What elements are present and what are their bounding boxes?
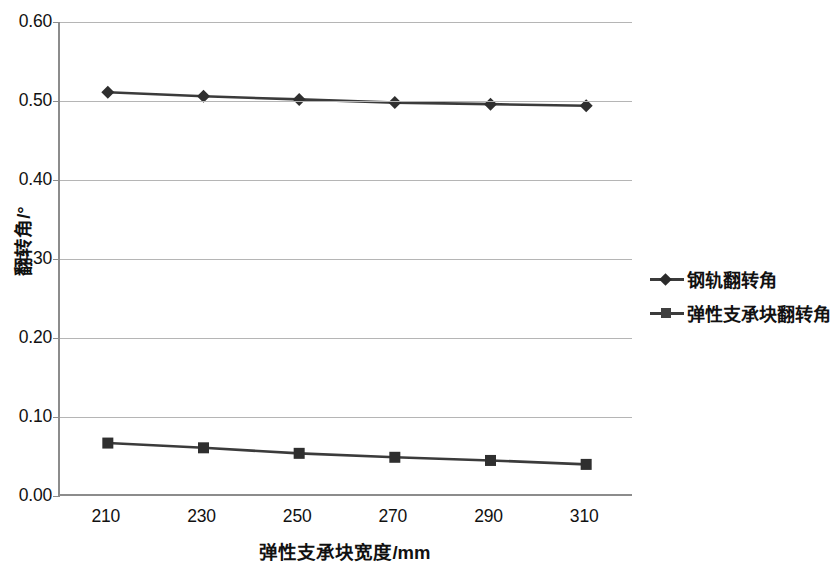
series-line-0 <box>108 92 586 105</box>
square-marker-icon <box>581 459 592 470</box>
diamond-marker-icon <box>484 98 497 111</box>
square-marker-icon <box>102 438 113 449</box>
y-tick-mark <box>53 338 60 339</box>
x-tick-label: 210 <box>71 508 141 526</box>
square-marker-icon <box>485 455 496 466</box>
legend-item-1[interactable]: 弹性支承块翻转角 <box>650 296 835 330</box>
chart-figure: 0.600.500.400.300.200.100.00 翻转角/° 21023… <box>0 0 835 572</box>
y-tick-label: 0.50 <box>6 92 52 110</box>
legend-item-0[interactable]: 钢轨翻转角 <box>650 262 835 296</box>
y-tick-mark <box>53 22 60 23</box>
x-tick-label: 290 <box>454 508 524 526</box>
y-tick-label: 0.10 <box>6 408 52 426</box>
x-tick-label: 250 <box>262 508 332 526</box>
diamond-marker-icon <box>659 273 672 286</box>
x-tick-label: 230 <box>167 508 237 526</box>
square-marker-icon <box>198 442 209 453</box>
square-marker-icon <box>294 448 305 459</box>
diamond-marker-icon <box>293 93 306 106</box>
y-tick-label: 0.00 <box>6 487 52 505</box>
diamond-marker-icon <box>101 86 114 99</box>
gridline-y <box>60 338 632 339</box>
gridline-y <box>60 22 632 23</box>
legend-label-0: 钢轨翻转角 <box>687 266 777 292</box>
gridline-y <box>60 417 632 418</box>
y-tick-mark <box>53 259 60 260</box>
y-tick-label: 0.60 <box>6 13 52 31</box>
legend-swatch-square <box>650 304 684 322</box>
x-tick-label: 270 <box>358 508 428 526</box>
diamond-marker-icon <box>388 96 401 109</box>
x-tick-label: 310 <box>549 508 619 526</box>
x-axis-title: 弹性支承块宽度/mm <box>58 538 632 564</box>
gridline-y <box>60 101 632 102</box>
y-tick-mark <box>53 496 60 497</box>
y-tick-mark <box>53 180 60 181</box>
y-axis-title: 翻转角/° <box>9 151 35 331</box>
gridline-y <box>60 180 632 181</box>
square-marker-icon <box>389 452 400 463</box>
square-marker-icon <box>661 308 671 318</box>
chart-legend: 钢轨翻转角 弹性支承块翻转角 <box>650 262 835 330</box>
gridline-y <box>60 259 632 260</box>
y-tick-label: 0.20 <box>6 329 52 347</box>
legend-swatch-diamond <box>650 270 684 288</box>
y-tick-mark <box>53 101 60 102</box>
plot-area <box>58 22 632 496</box>
y-tick-mark <box>53 417 60 418</box>
series-line-1 <box>108 443 586 464</box>
legend-label-1: 弹性支承块翻转角 <box>687 300 831 326</box>
